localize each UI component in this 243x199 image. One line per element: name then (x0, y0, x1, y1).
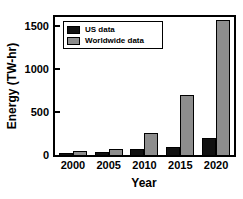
x-tick-label-2020: 2020 (204, 159, 228, 172)
bar-group-2020 (198, 17, 234, 155)
bar-worldwide-data-2020 (216, 20, 230, 155)
x-tick-label-2010: 2010 (132, 159, 156, 172)
y-tick-label-1000: 1000 (0, 62, 49, 76)
y-tick-mark-1500 (55, 25, 60, 27)
bar-us-data-2000 (59, 153, 73, 155)
bar-us-data-2015 (166, 147, 180, 155)
legend-swatch-icon (67, 26, 80, 34)
y-tick-label-500: 500 (0, 105, 49, 119)
y-tick-label-0: 0 (0, 148, 49, 162)
x-tick-label-2000: 2000 (61, 159, 85, 172)
bar-chart-figure: Energy (TW-hr) 050010001500 US dataWorld… (0, 0, 243, 199)
y-tick-mark-1000 (55, 68, 60, 70)
legend: US dataWorldwide data (63, 21, 163, 49)
plot-area: US dataWorldwide data (53, 15, 236, 157)
bar-worldwide-data-2010 (144, 133, 158, 155)
legend-label: Worldwide data (85, 36, 144, 45)
legend-label: US data (85, 25, 115, 34)
legend-item-worldwide-data: Worldwide data (67, 35, 158, 46)
bar-worldwide-data-2000 (73, 151, 87, 155)
bar-worldwide-data-2015 (180, 95, 194, 155)
bar-us-data-2020 (202, 138, 216, 155)
bar-group-2015 (162, 17, 198, 155)
bar-us-data-2010 (130, 149, 144, 155)
bar-us-data-2005 (95, 152, 109, 155)
y-tick-mark-500 (55, 111, 60, 113)
x-tick-label-2005: 2005 (96, 159, 120, 172)
x-tick-label-2015: 2015 (168, 159, 192, 172)
y-tick-label-1500: 1500 (0, 19, 49, 33)
legend-swatch-icon (67, 37, 80, 45)
legend-item-us-data: US data (67, 24, 158, 35)
bar-worldwide-data-2005 (109, 149, 123, 155)
x-axis-title: Year (131, 176, 156, 190)
